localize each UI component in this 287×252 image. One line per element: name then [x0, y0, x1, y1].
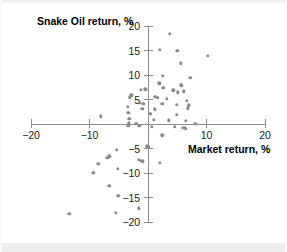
- data-point: [161, 74, 164, 77]
- data-point: [138, 124, 141, 127]
- x-axis-title: Market return, %: [188, 143, 270, 155]
- data-point: [189, 76, 192, 79]
- data-point: [175, 113, 178, 116]
- data-point: [176, 49, 179, 52]
- x-tick-1: [89, 119, 90, 128]
- data-point: [172, 89, 175, 92]
- data-point: [153, 108, 156, 111]
- data-point: [141, 107, 144, 110]
- data-point: [114, 211, 117, 214]
- data-point: [173, 125, 176, 128]
- y-tick-label-3: −5: [102, 143, 140, 155]
- data-point: [99, 115, 102, 118]
- y-tick-4: [144, 99, 153, 100]
- y-axis-title: Snake Oil return, %: [37, 15, 133, 27]
- y-tick-6: [144, 50, 153, 51]
- data-point: [67, 212, 70, 215]
- data-point: [186, 107, 189, 110]
- data-point: [185, 99, 188, 102]
- y-tick-5: [144, 75, 153, 76]
- data-point: [158, 82, 161, 85]
- data-point: [158, 161, 161, 164]
- data-point: [165, 97, 168, 100]
- data-point: [152, 118, 155, 121]
- data-point: [127, 111, 130, 114]
- data-point: [128, 117, 131, 120]
- data-point: [182, 90, 185, 93]
- y-tick-label-4: 5: [102, 94, 140, 106]
- y-tick-0: [144, 222, 153, 223]
- data-point: [137, 207, 140, 210]
- x-tick-label-1: −10: [81, 129, 99, 141]
- data-point: [142, 102, 145, 105]
- data-point: [149, 112, 152, 115]
- y-tick-1: [144, 197, 153, 198]
- data-point: [150, 125, 153, 128]
- data-point: [194, 122, 197, 125]
- x-tick-label-0: −20: [22, 129, 40, 141]
- scatter-plot: −20−101020 −20−15−10−55101520 Snake Oil …: [0, 0, 287, 252]
- data-point: [167, 118, 170, 121]
- y-tick-3: [144, 148, 153, 149]
- y-tick-label-6: 15: [102, 45, 140, 57]
- data-point: [180, 84, 183, 87]
- x-tick-0: [31, 119, 32, 128]
- y-tick-2: [144, 173, 153, 174]
- data-point: [105, 156, 108, 159]
- y-axis-line: [148, 26, 149, 222]
- data-point: [168, 32, 171, 35]
- y-tick-label-0: −20: [102, 216, 140, 228]
- y-tick-label-1: −15: [102, 192, 140, 204]
- x-tick-3: [265, 119, 266, 128]
- x-tick-label-3: 20: [259, 129, 270, 141]
- data-point: [160, 102, 163, 105]
- data-point: [91, 171, 94, 174]
- data-point: [179, 62, 182, 65]
- data-point: [175, 103, 178, 106]
- y-tick-7: [144, 26, 153, 27]
- data-point: [184, 119, 187, 122]
- data-point: [108, 184, 111, 187]
- y-tick-label-2: −10: [102, 167, 140, 179]
- data-point: [127, 124, 130, 127]
- x-tick-2: [206, 119, 207, 128]
- chart-screenshot: −20−101020 −20−15−10−55101520 Snake Oil …: [0, 0, 287, 252]
- x-tick-label-2: 10: [201, 129, 212, 141]
- data-point: [139, 88, 142, 91]
- data-point: [162, 86, 165, 89]
- data-point: [126, 105, 129, 108]
- data-point: [141, 160, 144, 163]
- data-point: [97, 162, 100, 165]
- data-point: [184, 127, 187, 130]
- data-point: [160, 134, 163, 137]
- data-point: [206, 54, 209, 57]
- data-point: [176, 91, 179, 94]
- data-point: [158, 48, 161, 51]
- data-point: [156, 96, 159, 99]
- y-tick-label-5: 10: [102, 69, 140, 81]
- data-point: [143, 88, 146, 91]
